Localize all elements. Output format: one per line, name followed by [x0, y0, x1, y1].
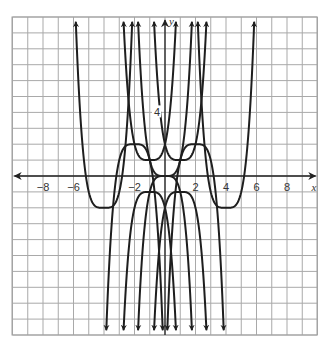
- x-axis-label: x: [311, 181, 317, 193]
- x-tick-label: −2: [128, 181, 141, 193]
- x-tick-label: −6: [67, 181, 80, 193]
- graph-plot: −8−6−224684 x y: [0, 0, 325, 346]
- y-axis-label: y: [168, 15, 174, 27]
- x-tick-label: 4: [223, 181, 229, 193]
- x-tick-label: 2: [192, 181, 198, 193]
- x-tick-label: 6: [253, 181, 259, 193]
- x-tick-label: −8: [37, 181, 50, 193]
- y-tick-label: 4: [154, 106, 160, 118]
- x-tick-label: 8: [284, 181, 290, 193]
